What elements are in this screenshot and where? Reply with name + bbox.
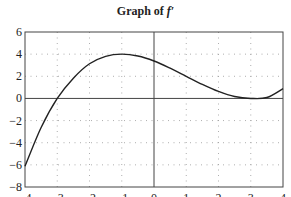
x-tick-label: 3 [248,191,254,197]
x-tick-label: −1 [115,191,128,197]
y-tick-label: 2 [16,69,22,83]
x-tick-label: −3 [51,191,64,197]
tick-labels: −4−3−2−101234−8−6−4−20246 [9,25,286,197]
y-tick-label: 6 [16,25,22,39]
x-tick-label: 1 [183,191,189,197]
y-tick-label: 0 [16,91,22,105]
x-tick-label: 2 [216,191,222,197]
y-tick-label: −4 [9,136,22,150]
y-tick-label: 4 [16,47,22,61]
x-tick-label: 0 [151,191,157,197]
axes [25,32,283,187]
line-chart: −4−3−2−101234−8−6−4−20246 [0,0,291,197]
x-tick-label: 4 [280,191,286,197]
y-tick-label: −2 [9,114,22,128]
y-tick-label: −8 [9,180,22,194]
y-tick-label: −6 [9,158,22,172]
x-tick-label: −2 [83,191,96,197]
